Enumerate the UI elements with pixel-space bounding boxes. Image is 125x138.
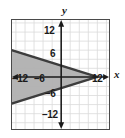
y-tick-label-neg6: –6 <box>45 89 56 99</box>
y-tick-label-6: 6 <box>50 49 55 59</box>
y-tick-label-12: 12 <box>44 26 55 36</box>
y-tick-label-neg12: –12 <box>42 110 58 120</box>
x-tick-label-12: 12 <box>92 74 103 84</box>
y-axis-bottom-arrow <box>58 122 64 129</box>
x-axis-name: x <box>114 69 120 80</box>
x-tick-label-neg6: –6 <box>34 74 45 84</box>
x-tick-label-neg12: –12 <box>12 74 28 84</box>
y-axis-name: y <box>62 5 67 16</box>
x-axis-right-arrow <box>103 74 109 80</box>
graph-figure: 12 6 –6 –12 –12 –6 12 y x <box>0 0 125 138</box>
y-axis-top-arrow <box>58 20 64 27</box>
